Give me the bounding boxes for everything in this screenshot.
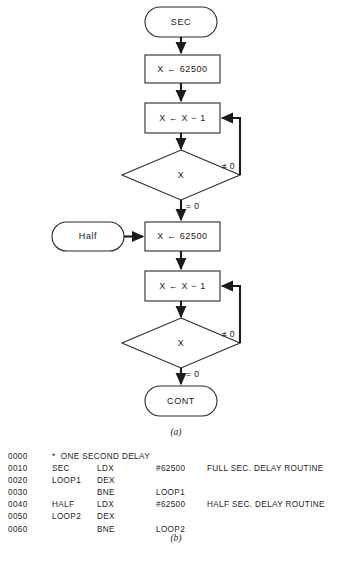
code-label: HALF [52,500,74,509]
node-dec-full-label: X ← X − 1 [159,113,206,123]
code-line-number: 0040 [8,500,28,509]
code-mnemonic: DEX [97,512,115,521]
node-init-half: X ← 62500 [145,222,220,251]
code-row: 0050LOOP2DEX [0,512,352,524]
figure-caption-a: (a) [0,427,352,437]
code-label: LOOP1 [52,476,81,485]
code-comment: HALF SEC. DELAY ROUTINE [207,500,325,509]
node-dec-half: X ← X − 1 [145,271,220,301]
code-line-number: 0030 [8,488,28,497]
node-test-half-label: X [178,338,185,348]
code-mnemonic: DEX [97,476,115,485]
code-operand: LOOP1 [156,488,185,497]
code-line-number: 0000 [8,452,28,461]
node-init-full: X ← 62500 [145,55,220,83]
delay-routine-flowchart: SEC X ← 62500 X ← X − 1 X ≠ 0 = 0 [0,0,352,430]
node-end-terminal-label: CONT [167,396,195,406]
code-row: 0020LOOP1DEX [0,476,352,488]
code-row: 0030BNELOOP1 [0,488,352,500]
node-test-full-label: X [178,170,185,180]
figure-caption-b: (b) [0,533,352,543]
code-line-number: 0010 [8,464,28,473]
node-end-terminal: CONT [145,386,217,416]
code-comment: FULL SEC. DELAY ROUTINE [207,464,324,473]
node-test-half: X [122,318,240,368]
code-operand: #62500 [156,464,185,473]
edge-label-half-nonzero: ≠ 0 [222,329,235,339]
node-half-terminal-label: Half [79,231,97,241]
assembly-listing: 0000* ONE SECOND DELAY0010SECLDX#62500FU… [0,452,352,537]
node-test-full: X [122,150,240,200]
code-label: SEC [52,464,70,473]
node-half-terminal: Half [52,222,124,251]
code-mnemonic: LDX [97,500,114,509]
node-dec-half-label: X ← X − 1 [159,281,206,291]
node-init-half-label: X ← 62500 [157,231,207,241]
code-comment-line: * ONE SECOND DELAY [52,452,150,461]
node-dec-full: X ← X − 1 [145,103,220,133]
node-start-terminal: SEC [145,7,217,37]
code-row: 0040HALFLDX#62500HALF SEC. DELAY ROUTINE [0,500,352,512]
code-row: 0010SECLDX#62500FULL SEC. DELAY ROUTINE [0,464,352,476]
edge-label-full-nonzero: ≠ 0 [222,161,235,171]
edge-label-half-zero: = 0 [186,369,199,379]
code-row: 0000* ONE SECOND DELAY [0,452,352,464]
figure-root: SEC X ← 62500 X ← X − 1 X ≠ 0 = 0 [0,0,352,569]
code-mnemonic: BNE [97,488,115,497]
node-start-terminal-label: SEC [171,17,191,27]
code-operand: #62500 [156,500,185,509]
node-init-full-label: X ← 62500 [157,64,207,74]
code-label: LOOP2 [52,512,81,521]
code-mnemonic: LDX [97,464,114,473]
code-line-number: 0050 [8,512,28,521]
edge-label-full-zero: = 0 [186,201,199,211]
code-line-number: 0020 [8,476,28,485]
